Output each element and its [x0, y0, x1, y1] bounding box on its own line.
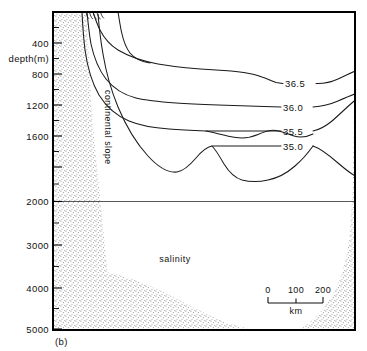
depth-tick-label-5000: 5000: [26, 324, 49, 335]
bathymetry-stipple-group: [53, 12, 355, 330]
depth-tick-label-4000: 4000: [26, 283, 49, 294]
depth-tick-label-400: 400: [32, 38, 49, 49]
panel-label: (b): [55, 336, 68, 347]
contour-35-5: [82, 12, 357, 131]
scale-bar-tick-100: 100: [288, 285, 304, 295]
scale-bar-unit-label: km: [290, 306, 303, 316]
contour-label-35-0: 35.0: [283, 141, 303, 152]
salinity-section-svg: 400 800 1200 1600 2000 3000 4000 5000 de…: [0, 0, 367, 351]
depth-tick-label-800: 800: [32, 69, 49, 80]
contour-36-0: [87, 12, 360, 107]
seafloor-mass: [53, 268, 259, 330]
depth-tick-label-2000: 2000: [26, 196, 49, 207]
contour-35-0: [98, 14, 357, 177]
depth-tick-label-3000: 3000: [26, 240, 49, 251]
depth-axis-title: depth(m): [9, 53, 49, 64]
contour-36-5: [93, 12, 360, 84]
depth-tick-label-1600: 1600: [26, 131, 49, 142]
scale-bar-tick-0: 0: [265, 285, 270, 295]
contour-label-36-5: 36.5: [285, 78, 305, 89]
continental-slope-label: continental slope: [103, 90, 113, 165]
right-margin-mass: [300, 12, 355, 330]
scale-bar-tick-200: 200: [315, 285, 331, 295]
salinity-section-figure: 400 800 1200 1600 2000 3000 4000 5000 de…: [0, 0, 367, 351]
depth-tick-label-1200: 1200: [26, 100, 49, 111]
salinity-label: salinity: [159, 254, 191, 264]
contour-label-35-5: 35.5: [283, 126, 303, 137]
contour-36-5-limb: [118, 12, 150, 63]
contour-label-36-0: 36.0: [283, 102, 303, 113]
contour-group: [82, 12, 360, 182]
